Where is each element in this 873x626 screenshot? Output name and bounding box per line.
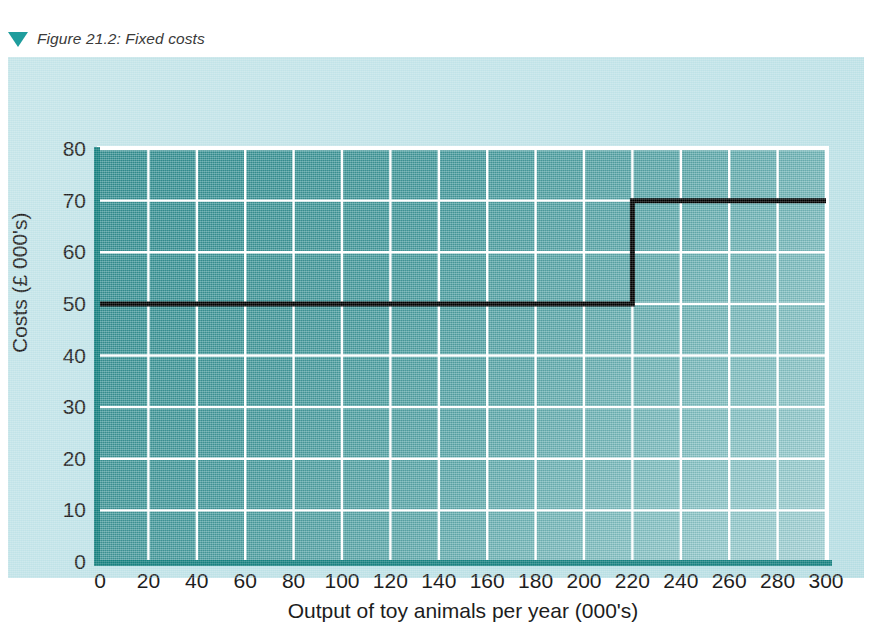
x-tick-label: 280: [760, 569, 795, 593]
x-tick-label: 140: [421, 569, 456, 593]
chart-panel: 01020304050607080 0204060801001201401601…: [8, 57, 864, 578]
x-tick-label: 260: [712, 569, 747, 593]
x-tick-label: 300: [808, 569, 843, 593]
x-tick-label: 20: [137, 569, 160, 593]
x-tick-label: 60: [234, 569, 257, 593]
x-tick-label: 220: [615, 569, 650, 593]
x-tick-label: 40: [185, 569, 208, 593]
x-tick-label: 80: [282, 569, 305, 593]
figure-caption: Figure 21.2: Fixed costs: [8, 27, 205, 51]
figure-caption-text: Figure 21.2: Fixed costs: [37, 30, 205, 48]
x-tick-label: 240: [663, 569, 698, 593]
x-tick-label: 200: [566, 569, 601, 593]
x-tick-label: 0: [94, 569, 106, 593]
y-axis-title: Costs (£ 000's): [8, 212, 32, 353]
x-tick-label: 180: [518, 569, 553, 593]
x-tick-label: 160: [470, 569, 505, 593]
x-axis-tick-labels: 0204060801001201401601802002202402602803…: [8, 57, 873, 626]
x-axis-title: Output of toy animals per year (000's): [100, 599, 826, 623]
x-tick-label: 100: [324, 569, 359, 593]
triangle-down-icon: [8, 32, 28, 47]
x-tick-label: 120: [373, 569, 408, 593]
